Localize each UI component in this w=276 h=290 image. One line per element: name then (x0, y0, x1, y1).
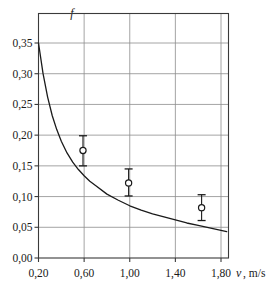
x-axis-ticks: 0,200,601,001,401,80 (28, 258, 231, 280)
decay-curve-chart: f 0,000,050,100,150,200,250,300,35 0,200… (0, 0, 276, 290)
data-point-with-error-bar (198, 195, 206, 221)
x-axis-unit-label: , m/s (243, 267, 266, 280)
y-tick-label: 0,00 (12, 252, 32, 265)
y-tick-label: 0,35 (12, 37, 32, 50)
data-point-with-error-bar (125, 169, 133, 196)
chart-figure: f 0,000,050,100,150,200,250,300,35 0,200… (0, 0, 276, 290)
y-tick-label: 0,30 (12, 68, 32, 81)
x-tick-label: 0,60 (74, 267, 94, 280)
y-tick-label: 0,20 (12, 129, 32, 142)
y-axis-ticks: 0,000,050,100,150,200,250,300,35 (12, 37, 38, 265)
measured-data-points (79, 136, 206, 221)
y-tick-label: 0,05 (12, 221, 32, 234)
vertical-gridlines (84, 14, 221, 259)
x-axis-symbol-label: v (236, 266, 242, 280)
x-tick-label: 1,40 (165, 267, 185, 280)
y-tick-label: 0,10 (12, 191, 32, 204)
x-tick-label: 1,00 (120, 267, 140, 280)
y-tick-label: 0,25 (12, 98, 32, 111)
data-point-with-error-bar (79, 136, 87, 166)
horizontal-gridlines (39, 43, 229, 227)
theoretical-curve (39, 43, 227, 232)
plot-frame (39, 14, 229, 259)
x-tick-label: 1,80 (211, 267, 231, 280)
x-tick-label: 0,20 (28, 267, 48, 280)
y-tick-label: 0,15 (12, 160, 32, 173)
